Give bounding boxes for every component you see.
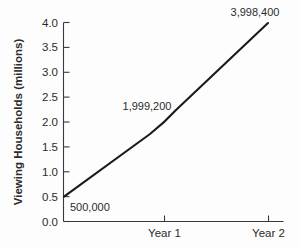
chart-canvas: 4.0 3.5 3.0 2.5 2.0 1.5 1.0 0.5 0.0 Year… — [0, 0, 299, 247]
x-tick-label-year-2: Year 2 — [252, 227, 285, 239]
y-tick-label-0-5: 0.5 — [42, 191, 58, 203]
y-tick-label-2-5: 2.5 — [42, 91, 58, 103]
y-axis-title: Viewing Households (millions) — [12, 39, 24, 206]
y-tick-label-1-0: 1.0 — [42, 166, 58, 178]
x-tick-label-year-1: Year 1 — [148, 227, 181, 239]
annotation-500000: 500,000 — [70, 201, 110, 213]
y-tick-label-1-5: 1.5 — [42, 141, 58, 153]
y-tick-label-3-5: 3.5 — [42, 41, 58, 53]
y-tick-label-3-0: 3.0 — [42, 66, 58, 78]
y-tick-label-4-0: 4.0 — [42, 17, 58, 29]
annotation-1999200: 1,999,200 — [123, 100, 172, 112]
line-chart: 4.0 3.5 3.0 2.5 2.0 1.5 1.0 0.5 0.0 Year… — [0, 0, 299, 247]
y-tick-label-0-0: 0.0 — [42, 216, 58, 228]
y-tick-label-2-0: 2.0 — [42, 116, 58, 128]
annotation-3998400: 3,998,400 — [231, 6, 280, 18]
